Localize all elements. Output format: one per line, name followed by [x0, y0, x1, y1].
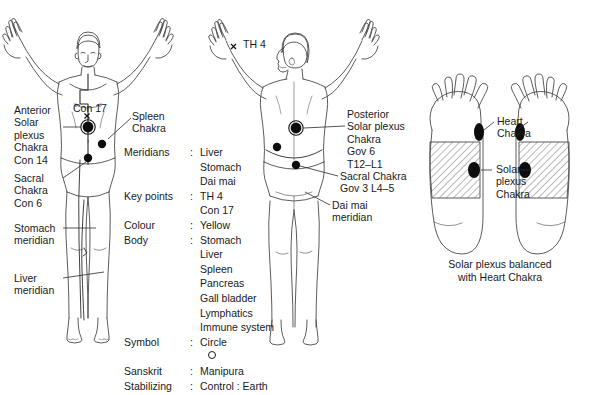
spec-key: Colour: [124, 218, 155, 233]
spec-value: Spleen: [200, 262, 233, 277]
spec-value: Liver: [200, 145, 223, 160]
label-solar-plexus-chakra-foot: Solar plexus Chakra: [496, 163, 530, 200]
spec-value: Lymphatics: [200, 306, 253, 321]
spec-key: Key points: [124, 189, 173, 204]
chakra-attribute-list: Meridians:LiverStomachDai maiKey points:…: [124, 145, 324, 380]
spec-key: Sanskrit: [124, 364, 162, 379]
label-heart-chakra: Heart Chakra: [497, 115, 531, 140]
anterior-spleen-chakra-dot: [98, 140, 106, 148]
diagram-canvas: Con 17 Anterior Solar plexus Chakra Con …: [0, 0, 599, 395]
spec-value: Con 17: [200, 203, 234, 218]
spec-value: Liver: [200, 247, 223, 262]
label-spleen-chakra: Spleen Chakra: [132, 110, 166, 135]
label-th-4: TH 4: [243, 38, 266, 50]
spec-value: Gall bladder: [200, 291, 257, 306]
label-con-17: Con 17: [73, 102, 107, 114]
spec-separator: :: [190, 189, 193, 204]
feet-caption: Solar plexus balanced with Heart Chakra: [430, 258, 570, 284]
spec-value: TH 4: [200, 189, 223, 204]
label-anterior-solar-plexus-chakra: Anterior Solar plexus Chakra Con 14: [14, 104, 51, 166]
spec-value: Control : Earth: [200, 379, 268, 394]
circle-symbol-icon: [208, 351, 216, 359]
spec-key: Meridians: [124, 145, 170, 160]
label-liver-meridian: Liver meridian: [14, 272, 54, 297]
spec-value: Stomach: [200, 233, 241, 248]
left-foot-heart-chakra-marker: [474, 123, 484, 141]
spec-key: Body: [124, 233, 148, 248]
anterior-sacral-chakra-dot: [84, 154, 92, 162]
spec-value: Stomach: [200, 160, 241, 175]
spec-key: Symbol: [124, 335, 159, 350]
spec-key: Stabilizing: [124, 379, 172, 394]
spec-separator: :: [190, 335, 193, 350]
spec-value: Circle: [200, 335, 227, 350]
label-stomach-meridian: Stomach meridian: [14, 222, 55, 247]
th-4-cross-icon: [231, 44, 236, 49]
label-posterior-sacral-chakra: Sacral Chakra Gov 3 L4–5: [340, 170, 407, 195]
spec-separator: :: [190, 379, 193, 394]
left-foot-solar-plexus-marker: [468, 162, 480, 178]
anterior-solar-plexus-chakra-dot: [81, 120, 95, 134]
spec-value: Dai mai: [200, 174, 236, 189]
spec-separator: :: [190, 218, 193, 233]
spec-value: Immune system: [200, 320, 274, 335]
label-posterior-solar-plexus-chakra: Posterior Solar plexus Chakra Gov 6 T12–…: [347, 108, 405, 170]
spec-value: Manipura: [200, 364, 244, 379]
posterior-solar-plexus-chakra-dot: [289, 121, 303, 135]
label-dai-mai-meridian: Dai mai meridian: [332, 199, 372, 224]
label-sacral-chakra-con-6: Sacral Chakra Con 6: [14, 172, 48, 209]
spec-separator: :: [190, 233, 193, 248]
spec-value: Pancreas: [200, 276, 244, 291]
spec-separator: :: [190, 364, 193, 379]
cross-markers: [85, 44, 237, 119]
spec-separator: :: [190, 145, 193, 160]
spec-value: Yellow: [200, 218, 230, 233]
